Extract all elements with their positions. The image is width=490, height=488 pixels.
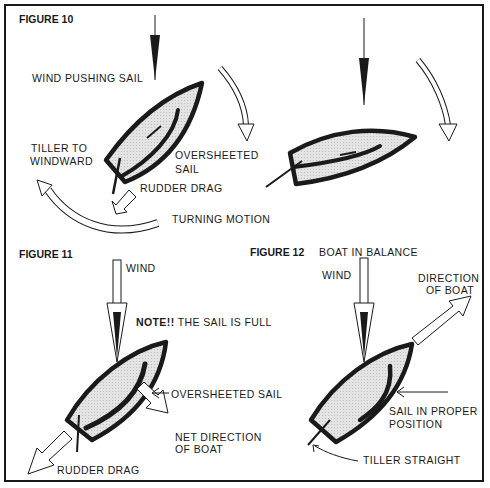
fig10-turning-motion-label: TURNING MOTION (172, 213, 270, 225)
fig10-boat (106, 83, 202, 194)
fig11-oversheeted-label: OVERSHEETED SAIL (171, 388, 282, 400)
fig10-wind-label: WIND PUSHING SAIL (32, 72, 143, 84)
fig12-sail-label-2: POSITION (389, 418, 442, 430)
fig11-net-direction-label-1: NET DIRECTION (175, 431, 262, 443)
fig10-oversheeted-label-1: OVERSHEETED (175, 149, 259, 161)
fig10b-turn-arrow (418, 60, 457, 141)
fig12-tiller-label: TILLER STRAIGHT (363, 454, 461, 466)
fig11-note: NOTE!! THE SAIL IS FULL (136, 316, 272, 328)
fig10-oversheeted-label-2: SAIL (175, 163, 199, 175)
fig11-note-bold: NOTE!! (136, 316, 175, 328)
fig11-wind-label: WIND (126, 262, 156, 274)
fig12-direction-label-2: OF BOAT (426, 284, 474, 296)
fig10b-boat (266, 131, 415, 187)
figure-11-title: FIGURE 11 (19, 248, 73, 260)
fig10-tiller-label-2: WINDWARD (30, 155, 93, 167)
fig10b-wind-arrow (359, 18, 369, 105)
fig12-subtitle: BOAT IN BALANCE (319, 246, 418, 258)
fig10-tiller-label-1: TILLER TO (31, 142, 87, 154)
fig12-sail-pointer (397, 387, 448, 397)
fig12-sail-label-1: SAIL IN PROPER (389, 405, 478, 417)
fig11-rudder-drag-label: RUDDER DRAG (57, 464, 140, 476)
fig12-tiller-pointer (313, 445, 358, 461)
figure-10-title: FIGURE 10 (19, 13, 73, 25)
fig12-wind-label: WIND (322, 269, 352, 281)
fig10-rudder-drag-arrow (112, 190, 136, 214)
fig12-direction-label-1: DIRECTION (418, 272, 479, 284)
fig12-wind-arrow (354, 258, 374, 362)
fig11-wind-arrow (107, 260, 127, 362)
fig12-direction-arrow (412, 296, 471, 345)
fig11-net-direction-label-2: OF BOAT (175, 443, 223, 455)
fig10-turn-arrow-right (220, 68, 254, 141)
figure-12-title: FIGURE 12 (250, 246, 304, 258)
fig11-note-text: THE SAIL IS FULL (178, 316, 272, 328)
fig10-rudder-drag-label: RUDDER DRAG (140, 182, 223, 194)
fig10-wind-arrow (150, 15, 160, 80)
